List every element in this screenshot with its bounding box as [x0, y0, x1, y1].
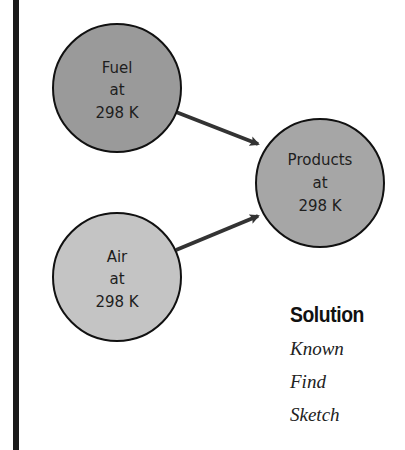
node-fuel-line1: Fuel: [102, 59, 133, 77]
node-fuel: Fuel at 298 K: [53, 24, 181, 152]
node-fuel-line3: 298 K: [95, 104, 139, 122]
node-air-line3: 298 K: [95, 293, 139, 311]
node-fuel-line2: at: [109, 81, 124, 99]
solution-item-sketch: Sketch: [290, 398, 374, 431]
solution-item-known: Known: [290, 332, 374, 365]
solution-heading: Solution: [290, 302, 364, 328]
node-air-line2: at: [109, 270, 124, 288]
node-products: Products at 298 K: [256, 119, 384, 247]
node-products-line3: 298 K: [298, 197, 342, 215]
arrow-air-to-products: [176, 216, 258, 250]
node-air-line1: Air: [107, 248, 128, 266]
arrow-fuel-to-products: [176, 112, 258, 144]
solution-panel: Solution Known Find Sketch: [290, 302, 374, 431]
node-air: Air at 298 K: [53, 213, 181, 341]
node-products-line2: at: [312, 174, 327, 192]
node-products-line1: Products: [288, 151, 353, 169]
solution-item-find: Find: [290, 365, 374, 398]
